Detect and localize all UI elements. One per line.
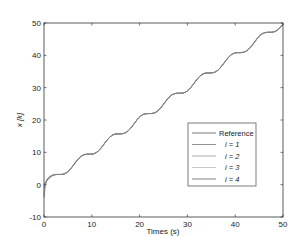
axes-frame: [44, 23, 283, 217]
y-axis-label: x [k]: [15, 112, 24, 128]
y-tick-label: 40: [32, 51, 41, 60]
x-tick-label: 30: [183, 220, 192, 229]
y-tick-label: 30: [32, 84, 41, 93]
x-tick-label: 10: [87, 220, 96, 229]
legend-label: i = 3: [225, 163, 240, 172]
x-tick-label: 0: [42, 220, 47, 229]
x-tick-label: 20: [135, 220, 144, 229]
x-tick-label: 50: [279, 220, 288, 229]
x-axis-label: Times (s): [146, 227, 179, 236]
legend-label: i = 1: [225, 140, 239, 149]
legend-label: i = 4: [225, 175, 239, 184]
y-tick-label: 10: [32, 148, 41, 157]
y-tick-label: 50: [32, 19, 41, 28]
y-tick-label: -10: [29, 213, 41, 222]
y-tick-label: 20: [32, 116, 41, 125]
y-tick-label: 0: [37, 181, 42, 190]
legend-label: Reference: [219, 129, 254, 138]
line-chart: 01020304050-1001020304050 Times (s) x [k…: [0, 0, 300, 237]
x-tick-label: 40: [231, 220, 240, 229]
legend: Referencei = 1i = 2i = 3i = 4: [188, 123, 256, 186]
legend-label: i = 2: [225, 152, 240, 161]
